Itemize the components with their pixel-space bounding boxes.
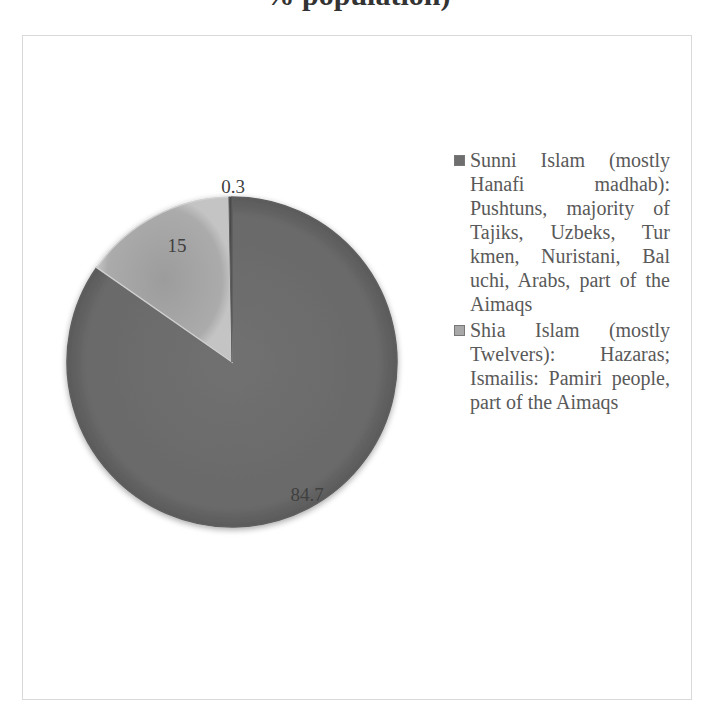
legend-label-sunni: Sunni Islam (mostly Hanafi madhab): Push… (470, 148, 670, 316)
legend: Sunni Islam (mostly Hanafi madhab): Push… (454, 148, 670, 414)
slice-label-sunni: 84.7 (290, 484, 323, 506)
legend-item-shia: Shia Islam (mostly Twelvers): Hazaras; I… (454, 318, 670, 414)
legend-swatch-shia-icon (454, 325, 465, 336)
legend-label-shia: Shia Islam (mostly Twelvers): Hazaras; I… (470, 318, 670, 414)
legend-item-sunni: Sunni Islam (mostly Hanafi madhab): Push… (454, 148, 670, 316)
legend-swatch-sunni-icon (454, 155, 465, 166)
slice-label-other: 0.3 (221, 176, 245, 198)
slice-label-shia: 15 (168, 235, 187, 257)
